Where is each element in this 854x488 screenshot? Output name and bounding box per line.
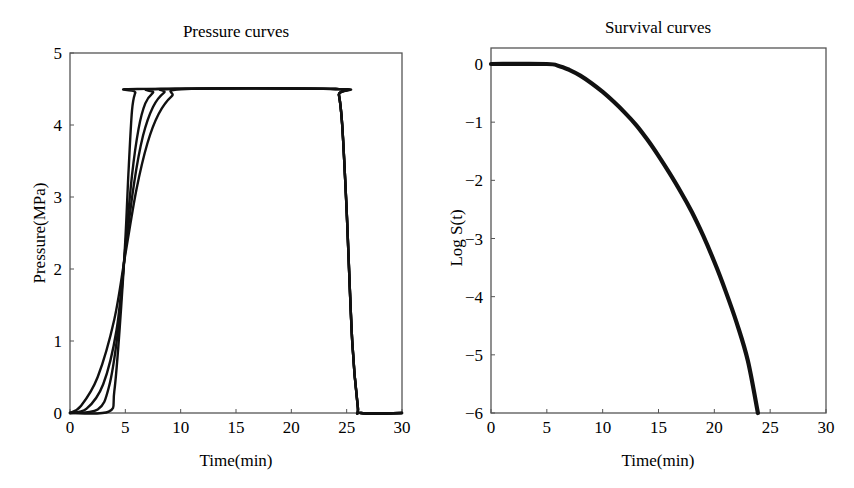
y-tick-label: −3 (465, 230, 483, 249)
x-tick-label: 0 (66, 418, 75, 437)
x-tick-label: 5 (543, 418, 552, 437)
x-tick-label: 30 (394, 418, 411, 437)
plot-frame (491, 48, 826, 413)
series-line (70, 88, 402, 413)
x-tick-label: 10 (594, 418, 611, 437)
axis-ticks: 0510152025300−1−2−3−4−5−6 (465, 55, 835, 437)
figure: Pressure curves 051015202530012345 Time(… (0, 0, 854, 488)
x-tick-label: 10 (172, 418, 189, 437)
x-tick-label: 20 (706, 418, 723, 437)
x-tick-label: 25 (338, 418, 355, 437)
series-line (70, 88, 402, 413)
survival-chart: Survival curves 0510152025300−1−2−3−4−5−… (447, 18, 835, 470)
y-tick-label: −6 (465, 404, 483, 423)
y-axis-label: Log S(t) (447, 209, 466, 266)
y-tick-label: 1 (54, 332, 63, 351)
y-tick-label: 3 (54, 188, 63, 207)
y-tick-label: 5 (54, 44, 63, 63)
y-axis-label: Pressure(MPa) (30, 182, 49, 283)
series-line (70, 88, 402, 413)
y-tick-label: 0 (475, 55, 484, 74)
chart-title: Survival curves (605, 18, 711, 37)
x-tick-label: 30 (818, 418, 835, 437)
x-tick-label: 0 (487, 418, 496, 437)
y-tick-label: −4 (465, 288, 484, 307)
y-tick-label: −1 (465, 113, 483, 132)
x-axis-label: Time(min) (621, 451, 694, 470)
y-tick-label: −2 (465, 171, 483, 190)
x-tick-label: 15 (228, 418, 245, 437)
x-axis-label: Time(min) (199, 451, 272, 470)
y-tick-label: 4 (54, 116, 63, 135)
x-tick-label: 25 (762, 418, 779, 437)
x-tick-label: 15 (650, 418, 667, 437)
series-line (491, 64, 758, 413)
y-tick-label: −5 (465, 346, 483, 365)
data-series (491, 64, 758, 413)
series-line (70, 88, 402, 413)
pressure-chart: Pressure curves 051015202530012345 Time(… (30, 22, 411, 470)
data-series (70, 88, 402, 413)
x-tick-label: 5 (121, 418, 130, 437)
x-tick-label: 20 (283, 418, 300, 437)
y-tick-label: 2 (54, 260, 63, 279)
chart-title: Pressure curves (183, 22, 289, 41)
y-tick-label: 0 (54, 404, 63, 423)
axis-ticks: 051015202530012345 (54, 44, 411, 437)
